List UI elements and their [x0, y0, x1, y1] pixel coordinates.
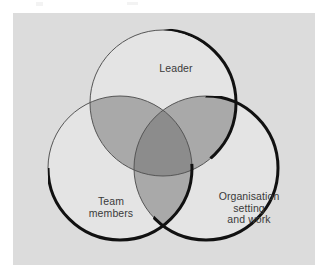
figure-root: Leader Team members Organisation setting… [0, 0, 328, 280]
venn-label-team-members: Team members [69, 196, 153, 219]
venn-diagram-graphic [13, 13, 315, 265]
scan-artifact-left [36, 2, 43, 6]
venn-label-organisation: Organisation setting and work [204, 191, 294, 226]
venn-diagram-panel: Leader Team members Organisation setting… [13, 13, 315, 265]
scan-artifact-center [127, 2, 138, 5]
venn-label-leader: Leader [133, 63, 219, 75]
